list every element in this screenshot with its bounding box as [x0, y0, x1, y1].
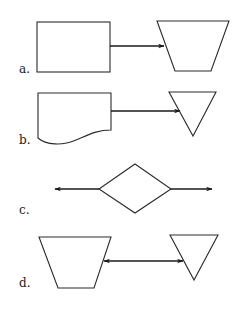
document-shape	[38, 93, 111, 144]
row-d-label: d.	[19, 276, 31, 290]
manual-operation-trapezoid	[39, 237, 111, 288]
row-d: d.	[19, 235, 218, 290]
row-a: a.	[19, 21, 229, 76]
manual-operation-trapezoid	[157, 21, 229, 71]
row-a-label: a.	[19, 62, 30, 76]
row-b-label: b.	[19, 133, 31, 147]
row-c: c.	[19, 164, 212, 217]
flowchart-symbols-diagram: a. b. c. d.	[0, 0, 241, 310]
merge-triangle	[169, 92, 216, 136]
merge-triangle	[170, 235, 218, 280]
decision-diamond	[99, 164, 171, 213]
row-c-label: c.	[19, 203, 30, 217]
process-rectangle	[37, 22, 110, 72]
row-b: b.	[19, 92, 216, 147]
